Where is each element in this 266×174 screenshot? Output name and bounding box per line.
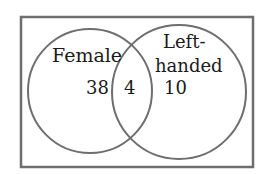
- region-count-intersection: 4: [124, 77, 135, 98]
- region-count-left-handed-only: 10: [164, 77, 187, 98]
- set-label-left-handed-line2: handed: [155, 55, 223, 76]
- set-label-left-handed-line1: Left-: [163, 31, 206, 52]
- venn-diagram: Female Left- handed 38 4 10: [0, 0, 266, 174]
- set-label-female: Female: [52, 44, 122, 66]
- region-count-female-only: 38: [86, 77, 109, 98]
